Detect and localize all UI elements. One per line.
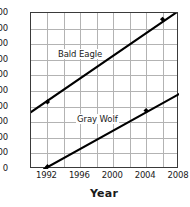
y-tick-label-300: 300 <box>0 117 8 126</box>
y-tick-label-100: 100 <box>0 148 8 157</box>
x-tick-label-1992: 1992 <box>29 171 63 180</box>
y-tick-label-900: 900 <box>0 24 8 33</box>
population-line-chart: Bald Eagle Gray Wolf 0100200300400500600… <box>0 0 190 207</box>
x-tick-label-2008: 2008 <box>161 171 190 180</box>
series-label-bald-eagle: Bald Eagle <box>57 49 103 59</box>
y-tick-label-0: 0 <box>0 164 8 173</box>
x-tick-label-2004: 2004 <box>128 171 162 180</box>
x-tick-label-2000: 2000 <box>95 171 129 180</box>
y-tick-label-800: 800 <box>0 39 8 48</box>
y-tick-label-700: 700 <box>0 55 8 64</box>
series-label-gray-wolf: Gray Wolf <box>76 114 119 124</box>
series-line-gray-wolf <box>44 94 179 169</box>
series-line-bald-eagle <box>31 13 179 112</box>
y-tick-label-600: 600 <box>0 70 8 79</box>
y-tick-label-200: 200 <box>0 133 8 142</box>
x-axis-title: Year <box>30 187 178 200</box>
y-tick-label-400: 400 <box>0 102 8 111</box>
series-layer <box>31 13 179 169</box>
series-svg <box>31 13 179 169</box>
y-tick-label-1000: 1000 <box>0 8 8 17</box>
plot-area: Bald Eagle Gray Wolf <box>30 12 178 168</box>
y-tick-label-500: 500 <box>0 86 8 95</box>
x-tick-label-1996: 1996 <box>62 171 96 180</box>
